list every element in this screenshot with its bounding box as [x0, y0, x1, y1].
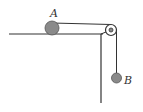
label-a: A: [49, 7, 58, 20]
pulley-axle: [109, 28, 113, 32]
string-horizontal: [52, 23, 111, 25]
ball-b: [112, 73, 122, 83]
ball-a: [45, 21, 59, 35]
pulley-diagram: A B: [0, 0, 143, 112]
label-b: B: [123, 74, 132, 87]
